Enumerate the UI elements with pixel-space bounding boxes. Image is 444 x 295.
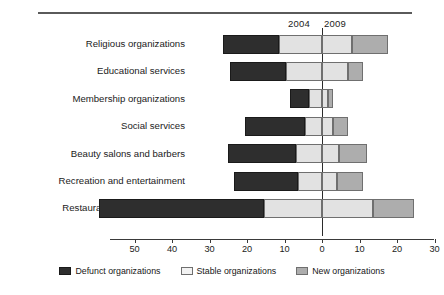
chart-row: Social services: [0, 115, 444, 137]
bar-segment-stable-left: [286, 62, 322, 81]
axis-tick-mark: [247, 239, 248, 243]
axis-tick-mark: [435, 239, 436, 243]
bar-segment-new: [348, 62, 363, 81]
bar-segment-stable-right: [322, 199, 373, 218]
chart-row: Membership organizations: [0, 88, 444, 110]
axis-tick-mark: [135, 239, 136, 243]
axis-tick-mark: [360, 239, 361, 243]
legend-item-new: New organizations: [296, 266, 384, 276]
axis-tick-mark: [322, 239, 323, 243]
bar-segment-defunct: [290, 89, 309, 108]
bar-segment-new: [352, 35, 388, 54]
bar-segment-stable-left: [279, 35, 322, 54]
axis-tick-label: 0: [319, 244, 324, 254]
axis-tick-label: 10: [279, 244, 289, 254]
bar-segment-new: [328, 89, 334, 108]
axis-tick-label: 20: [392, 244, 402, 254]
category-label: Beauty salons and barbers: [10, 143, 185, 165]
bar-segment-stable-left: [298, 172, 322, 191]
axis-tick-label: 20: [242, 244, 252, 254]
axis-tick-mark: [172, 239, 173, 243]
bar-segment-defunct: [245, 117, 305, 136]
chart-row: Educational services: [0, 60, 444, 82]
category-label: Membership organizations: [10, 88, 185, 110]
period-label-2004: 2004: [288, 18, 310, 29]
bar-segment-defunct: [228, 144, 296, 163]
bar-segment-stable-right: [322, 144, 339, 163]
bar-segment-defunct: [234, 172, 298, 191]
chart-legend: Defunct organizations Stable organizatio…: [0, 266, 444, 276]
axis-tick-mark: [210, 239, 211, 243]
legend-item-defunct: Defunct organizations: [59, 266, 160, 276]
chart-figure: 2004 2009 Religious organizationsEducati…: [0, 0, 444, 295]
bar-segment-defunct: [230, 62, 286, 81]
legend-swatch-defunct-icon: [59, 267, 71, 275]
bar-segment-stable-left: [305, 117, 322, 136]
category-label: Religious organizations: [10, 33, 185, 55]
legend-label-new: New organizations: [312, 266, 384, 276]
axis-tick-label: 50: [129, 244, 139, 254]
bar-segment-stable-left: [264, 199, 322, 218]
axis-tick-label: 30: [429, 244, 439, 254]
bar-segment-stable-left: [309, 89, 322, 108]
legend-item-stable: Stable organizations: [181, 266, 277, 276]
category-label: Social services: [10, 115, 185, 137]
chart-row: Recreation and entertainment: [0, 170, 444, 192]
bar-segment-defunct: [223, 35, 279, 54]
category-label: Recreation and entertainment: [10, 170, 185, 192]
bar-segment-defunct: [99, 199, 264, 218]
bar-segment-new: [337, 172, 363, 191]
axis-tick-label: 30: [204, 244, 214, 254]
axis-tick-label: 10: [354, 244, 364, 254]
legend-label-defunct: Defunct organizations: [75, 266, 160, 276]
bar-segment-new: [339, 144, 367, 163]
bar-segment-stable-left: [296, 144, 322, 163]
legend-label-stable: Stable organizations: [197, 266, 277, 276]
bar-segment-stable-right: [322, 172, 337, 191]
category-label: Educational services: [10, 60, 185, 82]
plot-area: 2004 2009 Religious organizationsEducati…: [0, 0, 444, 240]
axis-tick-mark: [397, 239, 398, 243]
chart-row: Religious organizations: [0, 33, 444, 55]
bar-segment-stable-right: [322, 117, 333, 136]
legend-swatch-stable-icon: [181, 267, 193, 275]
x-axis-line: [110, 239, 434, 240]
chart-row: Restaurants, cafes, and bars: [0, 197, 444, 219]
period-label-2009: 2009: [324, 18, 346, 29]
chart-row: Beauty salons and barbers: [0, 143, 444, 165]
bar-segment-new: [333, 117, 348, 136]
axis-tick-mark: [285, 239, 286, 243]
bar-segment-new: [373, 199, 414, 218]
bar-segment-stable-right: [322, 62, 348, 81]
axis-tick-label: 40: [167, 244, 177, 254]
legend-swatch-new-icon: [296, 267, 308, 275]
bar-segment-stable-right: [322, 35, 352, 54]
